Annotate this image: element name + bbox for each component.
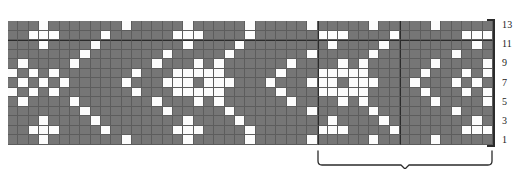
chart-cell-r8-c20[interactable] xyxy=(204,69,214,79)
chart-cell-r3-c20[interactable] xyxy=(204,116,214,126)
chart-cell-r13-c18[interactable] xyxy=(183,21,193,31)
chart-cell-r7-c38[interactable] xyxy=(390,78,400,88)
chart-cell-r4-c5[interactable] xyxy=(49,107,59,117)
chart-cell-r2-c11[interactable] xyxy=(111,126,121,136)
chart-cell-r9-c45[interactable] xyxy=(462,59,472,69)
chart-cell-r1-c17[interactable] xyxy=(173,135,183,145)
chart-cell-r2-c17[interactable] xyxy=(173,126,183,136)
chart-cell-r4-c8[interactable] xyxy=(80,107,90,117)
chart-cell-r13-c9[interactable] xyxy=(91,21,101,31)
chart-cell-r13-c16[interactable] xyxy=(163,21,173,31)
chart-cell-r8-c29[interactable] xyxy=(297,69,307,79)
chart-cell-r13-c23[interactable] xyxy=(235,21,245,31)
chart-cell-r3-c2[interactable] xyxy=(18,116,28,126)
chart-cell-r9-c12[interactable] xyxy=(122,59,132,69)
chart-cell-r1-c41[interactable] xyxy=(421,135,431,145)
chart-cell-r2-c3[interactable] xyxy=(29,126,39,136)
chart-cell-r11-c40[interactable] xyxy=(410,40,420,50)
chart-cell-r1-c2[interactable] xyxy=(18,135,28,145)
chart-cell-r9-c10[interactable] xyxy=(101,59,111,69)
chart-cell-r10-c42[interactable] xyxy=(431,50,441,60)
chart-cell-r3-c45[interactable] xyxy=(462,116,472,126)
chart-cell-r7-c13[interactable] xyxy=(132,78,142,88)
chart-cell-r12-c36[interactable] xyxy=(369,31,379,41)
chart-cell-r7-c47[interactable] xyxy=(483,78,493,88)
chart-cell-r9-c17[interactable] xyxy=(173,59,183,69)
chart-cell-r6-c10[interactable] xyxy=(101,88,111,98)
chart-cell-r6-c43[interactable] xyxy=(441,88,451,98)
chart-cell-r10-c2[interactable] xyxy=(18,50,28,60)
chart-cell-r6-c16[interactable] xyxy=(163,88,173,98)
chart-cell-r1-c13[interactable] xyxy=(132,135,142,145)
chart-cell-r13-c3[interactable] xyxy=(29,21,39,31)
chart-cell-r10-c8[interactable] xyxy=(80,50,90,60)
chart-cell-r3-c6[interactable] xyxy=(60,116,70,126)
chart-cell-r4-c9[interactable] xyxy=(91,107,101,117)
chart-cell-r6-c42[interactable] xyxy=(431,88,441,98)
chart-cell-r6-c39[interactable] xyxy=(400,88,410,98)
chart-cell-r3-c8[interactable] xyxy=(80,116,90,126)
chart-cell-r12-c28[interactable] xyxy=(287,31,297,41)
chart-cell-r10-c19[interactable] xyxy=(194,50,204,60)
chart-cell-r13-c24[interactable] xyxy=(245,21,255,31)
chart-cell-r10-c3[interactable] xyxy=(29,50,39,60)
chart-cell-r10-c34[interactable] xyxy=(349,50,359,60)
chart-cell-r5-c2[interactable] xyxy=(18,97,28,107)
chart-cell-r1-c40[interactable] xyxy=(410,135,420,145)
chart-cell-r2-c33[interactable] xyxy=(338,126,348,136)
chart-cell-r6-c30[interactable] xyxy=(307,88,317,98)
chart-cell-r8-c24[interactable] xyxy=(245,69,255,79)
chart-cell-r5-c36[interactable] xyxy=(369,97,379,107)
chart-cell-r5-c15[interactable] xyxy=(152,97,162,107)
chart-cell-r5-c11[interactable] xyxy=(111,97,121,107)
chart-cell-r8-c16[interactable] xyxy=(163,69,173,79)
chart-cell-r6-c41[interactable] xyxy=(421,88,431,98)
chart-cell-r3-c21[interactable] xyxy=(214,116,224,126)
chart-cell-r11-c34[interactable] xyxy=(349,40,359,50)
chart-cell-r12-c23[interactable] xyxy=(235,31,245,41)
chart-cell-r7-c35[interactable] xyxy=(359,78,369,88)
chart-cell-r3-c41[interactable] xyxy=(421,116,431,126)
chart-cell-r9-c43[interactable] xyxy=(441,59,451,69)
chart-cell-r11-c37[interactable] xyxy=(379,40,389,50)
chart-cell-r6-c13[interactable] xyxy=(132,88,142,98)
chart-cell-r1-c28[interactable] xyxy=(287,135,297,145)
chart-cell-r7-c37[interactable] xyxy=(379,78,389,88)
chart-cell-r4-c47[interactable] xyxy=(483,107,493,117)
chart-cell-r2-c44[interactable] xyxy=(452,126,462,136)
chart-cell-r10-c11[interactable] xyxy=(111,50,121,60)
chart-cell-r3-c42[interactable] xyxy=(431,116,441,126)
chart-cell-r3-c10[interactable] xyxy=(101,116,111,126)
chart-cell-r10-c10[interactable] xyxy=(101,50,111,60)
chart-cell-r11-c38[interactable] xyxy=(390,40,400,50)
chart-cell-r9-c32[interactable] xyxy=(328,59,338,69)
chart-cell-r12-c35[interactable] xyxy=(359,31,369,41)
chart-cell-r4-c21[interactable] xyxy=(214,107,224,117)
chart-cell-r9-c40[interactable] xyxy=(410,59,420,69)
chart-cell-r4-c4[interactable] xyxy=(39,107,49,117)
chart-cell-r1-c43[interactable] xyxy=(441,135,451,145)
chart-cell-r8-c28[interactable] xyxy=(287,69,297,79)
chart-cell-r8-c11[interactable] xyxy=(111,69,121,79)
chart-cell-r8-c41[interactable] xyxy=(421,69,431,79)
chart-cell-r1-c21[interactable] xyxy=(214,135,224,145)
chart-cell-r12-c2[interactable] xyxy=(18,31,28,41)
chart-cell-r13-c41[interactable] xyxy=(421,21,431,31)
chart-cell-r6-c5[interactable] xyxy=(49,88,59,98)
chart-cell-r9-c41[interactable] xyxy=(421,59,431,69)
chart-cell-r6-c22[interactable] xyxy=(225,88,235,98)
chart-cell-r10-c45[interactable] xyxy=(462,50,472,60)
chart-cell-r13-c25[interactable] xyxy=(256,21,266,31)
chart-cell-r9-c5[interactable] xyxy=(49,59,59,69)
chart-cell-r6-c3[interactable] xyxy=(29,88,39,98)
chart-cell-r5-c47[interactable] xyxy=(483,97,493,107)
chart-cell-r8-c26[interactable] xyxy=(266,69,276,79)
chart-cell-r8-c2[interactable] xyxy=(18,69,28,79)
chart-cell-r1-c32[interactable] xyxy=(328,135,338,145)
chart-cell-r7-c4[interactable] xyxy=(39,78,49,88)
chart-cell-r7-c32[interactable] xyxy=(328,78,338,88)
chart-cell-r1-c23[interactable] xyxy=(235,135,245,145)
chart-cell-r13-c42[interactable] xyxy=(431,21,441,31)
chart-cell-r6-c12[interactable] xyxy=(122,88,132,98)
chart-cell-r9-c47[interactable] xyxy=(483,59,493,69)
